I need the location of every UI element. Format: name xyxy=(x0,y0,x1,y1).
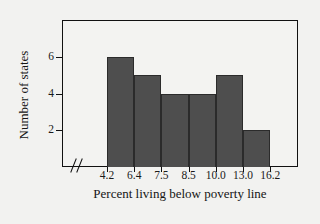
histogram-bar xyxy=(189,94,216,168)
y-axis-tick-label: 6 xyxy=(34,51,54,63)
x-axis-label: Percent living below poverty line xyxy=(62,186,298,202)
histogram-bar xyxy=(243,130,270,167)
histogram-figure: 246 4.26.47.58.510.013.016.2 Percent liv… xyxy=(0,0,320,224)
y-axis-label: Number of states xyxy=(16,30,32,160)
y-axis-tick xyxy=(56,130,63,131)
axis-break-icon xyxy=(70,158,86,174)
y-axis-tick xyxy=(56,94,63,95)
y-axis-tick xyxy=(56,57,63,58)
histogram-bar xyxy=(134,75,161,167)
bars-group xyxy=(62,20,298,167)
histogram-bar xyxy=(216,75,243,167)
histogram-bar xyxy=(107,57,134,167)
histogram-bar xyxy=(161,94,188,168)
y-axis-tick-label: 4 xyxy=(34,88,54,100)
y-axis-tick-label: 2 xyxy=(34,124,54,136)
x-axis-tick-label: 16.2 xyxy=(253,170,287,182)
